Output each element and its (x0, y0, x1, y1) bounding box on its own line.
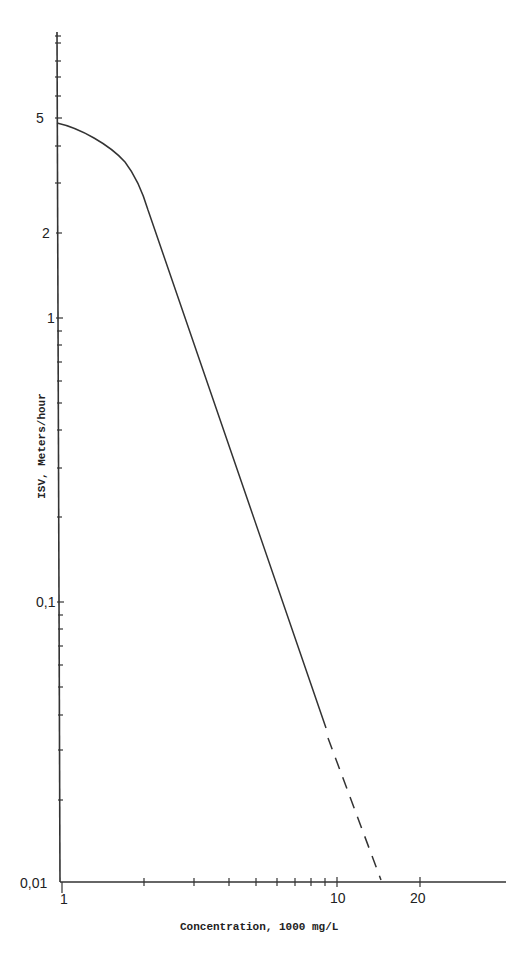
chart-canvas: 5 2 1 0,1 0,01 1 10 20 ISV, Meters/hour … (0, 0, 529, 968)
y-tick-label-2: 2 (42, 225, 50, 241)
x-tick-label-10: 10 (330, 890, 346, 906)
y-tick-label-0.1: 0,1 (36, 594, 56, 610)
isv-curve-solid (57, 123, 326, 728)
y-axis (57, 32, 60, 882)
y-tick-label-0.01: 0,01 (20, 875, 47, 891)
x-tick-label-20: 20 (410, 890, 426, 906)
x-tick-label-1: 1 (60, 891, 68, 907)
y-tick-label-1: 1 (47, 310, 55, 326)
y-tick-label-5: 5 (36, 110, 44, 126)
isv-curve-dashed (328, 738, 381, 880)
x-axis-title: Concentration, 1000 mg/L (180, 921, 339, 933)
x-ticks (62, 877, 420, 893)
y-axis-title: ISV, Meters/hour (36, 393, 48, 499)
